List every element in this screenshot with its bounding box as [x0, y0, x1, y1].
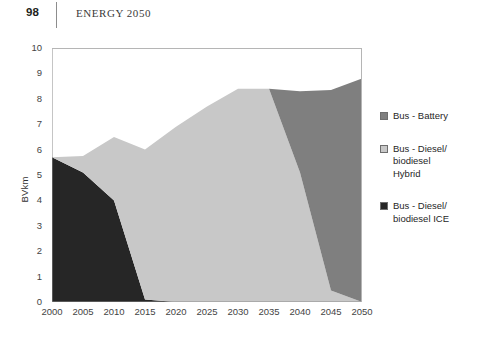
legend-label-hybrid: Bus - Diesel/ biodiesel Hybrid	[393, 143, 477, 181]
legend-swatch-hybrid	[380, 145, 388, 153]
y-tick-label: 1	[20, 271, 42, 282]
legend-item: Bus - Diesel/ biodiesel ICE	[380, 200, 477, 225]
running-head: 98 ENERGY 2050	[0, 0, 477, 34]
y-tick-label: 2	[20, 245, 42, 256]
page: 98 ENERGY 2050 BVkm 012345678910 2000200…	[0, 0, 477, 343]
chart-figure: BVkm 012345678910 2000200520102015202020…	[0, 34, 477, 343]
legend-label-battery: Bus - Battery	[393, 110, 477, 123]
stacked-area-chart	[52, 48, 362, 302]
y-tick-label: 10	[20, 42, 42, 53]
chart-legend: Bus - Battery Bus - Diesel/ biodiesel Hy…	[380, 110, 477, 245]
header-divider	[56, 2, 57, 28]
y-tick-label: 4	[20, 194, 42, 205]
y-tick-label: 6	[20, 144, 42, 155]
y-tick-label: 3	[20, 220, 42, 231]
legend-label-ice: Bus - Diesel/ biodiesel ICE	[393, 200, 477, 225]
y-tick-label: 7	[20, 118, 42, 129]
running-title: ENERGY 2050	[76, 7, 151, 19]
legend-item: Bus - Diesel/ biodiesel Hybrid	[380, 143, 477, 181]
y-tick-label: 9	[20, 67, 42, 78]
y-tick-label: 8	[20, 93, 42, 104]
plot-area	[52, 48, 362, 302]
y-tick-label: 5	[20, 169, 42, 180]
x-tick-label: 2050	[342, 306, 382, 317]
legend-item: Bus - Battery	[380, 110, 477, 123]
page-number: 98	[26, 6, 39, 18]
legend-swatch-battery	[380, 112, 388, 120]
legend-swatch-ice	[380, 202, 388, 210]
